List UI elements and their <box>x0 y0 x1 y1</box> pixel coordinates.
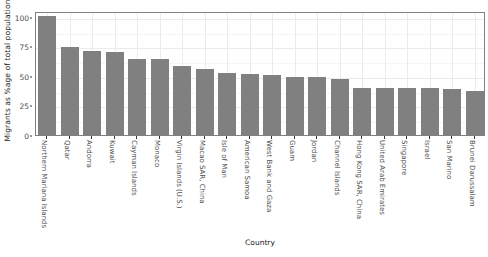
y-tick-label: 75 <box>19 43 29 52</box>
bar <box>128 59 146 135</box>
bar-chart: Migrants as %age of total population 025… <box>0 0 488 257</box>
y-tick-label: 50 <box>19 72 29 81</box>
y-tick-label: 0 <box>24 132 29 141</box>
bar <box>308 77 326 135</box>
x-tick-label: West Bank and Gaza <box>264 140 274 236</box>
bar <box>376 88 394 135</box>
x-tick-mark <box>136 136 137 139</box>
x-tick-label: Jordan <box>309 140 319 236</box>
bar <box>263 75 281 135</box>
x-tick-mark <box>114 136 115 139</box>
x-tick-label: Macao SAR, China <box>197 140 207 236</box>
x-axis-title: Country <box>35 238 485 247</box>
bar <box>61 47 79 135</box>
x-tick-mark <box>474 136 475 139</box>
bar <box>218 73 236 135</box>
bars-group <box>36 13 484 135</box>
x-tick-label: Monaco <box>152 140 162 236</box>
y-tick-mark <box>30 136 33 137</box>
bar <box>398 88 416 135</box>
x-tick-mark <box>294 136 295 139</box>
x-tick-label: Andorra <box>84 140 94 236</box>
plot-panel <box>35 12 485 136</box>
bar <box>331 79 349 135</box>
x-tick-mark <box>159 136 160 139</box>
bar <box>38 16 56 135</box>
y-tick-mark <box>30 47 33 48</box>
x-tick-mark <box>271 136 272 139</box>
y-tick-mark <box>30 106 33 107</box>
x-tick-label: Qatar <box>62 140 72 236</box>
bar <box>173 66 191 135</box>
x-tick-mark <box>204 136 205 139</box>
bar <box>151 59 169 135</box>
bar <box>196 69 214 135</box>
y-tick-mark <box>30 76 33 77</box>
x-tick-label: Channel Islands <box>332 140 342 236</box>
y-tick-label: 25 <box>19 102 29 111</box>
x-tick-mark <box>451 136 452 139</box>
x-tick-mark <box>46 136 47 139</box>
x-axis-tick-labels: Northern Mariana IslandsQatarAndorraKuwa… <box>35 140 485 236</box>
x-tick-label: Northern Mariana Islands <box>39 140 49 236</box>
x-tick-label: Guam <box>287 140 297 236</box>
x-tick-label: Virgin Islands (U.S.) <box>174 140 184 236</box>
x-tick-mark <box>339 136 340 139</box>
bar <box>241 74 259 135</box>
x-tick-mark <box>384 136 385 139</box>
x-tick-mark <box>226 136 227 139</box>
bar <box>286 77 304 135</box>
y-tick-mark <box>30 17 33 18</box>
y-axis-title-text: Migrants as %age of total population <box>3 0 12 141</box>
x-tick-label: Isle of Man <box>219 140 229 236</box>
x-tick-label: United Arab Emirates <box>377 140 387 236</box>
x-tick-mark <box>249 136 250 139</box>
bar <box>83 51 101 135</box>
x-tick-label: San Marino <box>444 140 454 236</box>
x-tick-mark <box>91 136 92 139</box>
x-tick-mark <box>69 136 70 139</box>
x-tick-mark <box>181 136 182 139</box>
x-tick-label: Hong Kong SAR, China <box>354 140 364 236</box>
x-tick-mark <box>361 136 362 139</box>
x-tick-label: Singapore <box>399 140 409 236</box>
x-tick-label: Israel <box>422 140 432 236</box>
x-tick-mark <box>316 136 317 139</box>
y-tick-label: 100 <box>15 13 29 22</box>
bar <box>353 88 371 135</box>
bar <box>466 91 484 135</box>
x-tick-label: Kuwait <box>107 140 117 236</box>
x-tick-mark <box>429 136 430 139</box>
x-tick-mark <box>406 136 407 139</box>
y-axis-title: Migrants as %age of total population <box>0 0 14 140</box>
bar <box>443 89 461 135</box>
x-tick-label: American Samoa <box>242 140 252 236</box>
bar <box>106 52 124 135</box>
y-axis-tick-labels: 0255075100 <box>14 12 32 136</box>
bar <box>421 88 439 135</box>
x-tick-label: Brunei Darussalam <box>467 140 477 236</box>
x-tick-label: Cayman Islands <box>129 140 139 236</box>
